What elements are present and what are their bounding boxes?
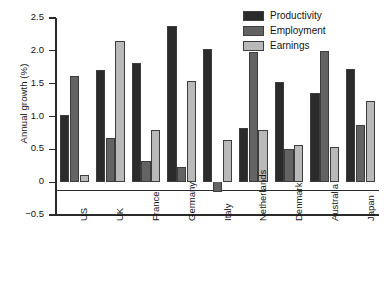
y-axis-tick-label: 2.5	[4, 12, 44, 22]
legend-swatch-employment	[243, 26, 264, 36]
y-axis-tick-label: 1.5	[4, 78, 44, 88]
bar-uk-employment	[106, 138, 115, 182]
x-axis-label-australia: Australia	[329, 184, 340, 221]
legend-item-earnings[interactable]: Earnings	[243, 39, 373, 53]
y-axis-tick-label: 0.5	[4, 143, 44, 153]
bar-uk-earnings	[115, 41, 124, 182]
bar-chart-figure: Annual growth (%) 2.52.01.51.00.50−0.5 U…	[0, 0, 384, 290]
bar-germany-employment	[177, 167, 186, 182]
bar-denmark-employment	[284, 149, 293, 182]
bar-us-productivity	[60, 115, 69, 183]
chart-legend: ProductivityEmploymentEarnings	[243, 9, 373, 54]
y-axis-tick-label: 0	[4, 176, 44, 186]
bar-netherlands-productivity	[239, 128, 248, 182]
bar-japan-productivity	[346, 69, 355, 183]
y-axis-tick-label: 2.0	[4, 45, 44, 55]
bar-japan-employment	[356, 125, 365, 182]
x-axis-label-japan: Japan	[365, 195, 376, 221]
x-axis-label-denmark: Denmark	[293, 182, 304, 221]
y-axis-tick-label: 1.0	[4, 111, 44, 121]
bar-germany-productivity	[167, 26, 176, 182]
legend-label-employment: Employment	[270, 26, 326, 36]
x-axis-label-us: US	[78, 208, 89, 221]
bar-italy-earnings	[223, 140, 232, 182]
x-axis-label-italy: Italy	[222, 204, 233, 221]
bar-us-earnings	[80, 175, 89, 182]
bar-australia-employment	[320, 51, 329, 182]
x-axis-label-france: France	[150, 191, 161, 221]
x-axis-label-uk: UK	[114, 208, 125, 221]
bar-italy-employment	[213, 182, 222, 192]
bar-france-employment	[141, 161, 150, 182]
x-axis-label-netherlands: Netherlands	[257, 170, 268, 221]
bar-uk-productivity	[96, 70, 105, 182]
y-axis-tick-label: −0.5	[4, 209, 44, 219]
legend-swatch-earnings	[243, 41, 264, 51]
legend-label-productivity: Productivity	[270, 11, 322, 21]
legend-swatch-productivity	[243, 11, 264, 21]
bar-denmark-earnings	[294, 145, 303, 182]
bar-japan-earnings	[366, 101, 375, 182]
bar-italy-productivity	[203, 49, 212, 182]
bar-france-earnings	[151, 130, 160, 183]
legend-label-earnings: Earnings	[270, 41, 309, 51]
bar-australia-earnings	[330, 147, 339, 182]
bar-australia-productivity	[310, 93, 319, 182]
bar-netherlands-employment	[249, 52, 258, 182]
bar-us-employment	[70, 76, 79, 182]
legend-item-employment[interactable]: Employment	[243, 24, 373, 38]
bar-denmark-productivity	[275, 82, 284, 182]
bar-france-productivity	[132, 63, 141, 183]
legend-item-productivity[interactable]: Productivity	[243, 9, 373, 23]
x-axis-label-germany: Germany	[186, 182, 197, 221]
bar-germany-earnings	[187, 81, 196, 182]
